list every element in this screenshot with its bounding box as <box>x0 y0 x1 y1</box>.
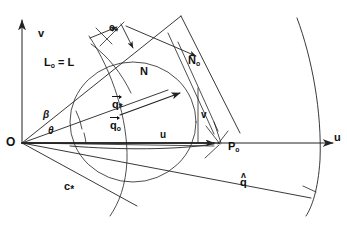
label-q-zero: qo <box>110 120 121 133</box>
label-N-zero: No <box>188 55 200 68</box>
P0-spoke-3 <box>205 145 219 158</box>
axis-label-u: u <box>334 132 341 143</box>
diagram-canvas <box>0 0 347 248</box>
angle-arc-beta <box>76 111 82 129</box>
segment-N0 <box>168 33 214 134</box>
label-v-component: v <box>201 110 207 120</box>
angle-arc-theta <box>84 133 86 143</box>
label-L0-equals-L: Lo = L <box>44 57 74 70</box>
label-P-zero: Po <box>228 141 240 154</box>
ray-L0 <box>22 16 181 143</box>
label-q-hat: ʌq <box>240 177 247 188</box>
label-N: N <box>140 66 148 77</box>
point-label-origin: O <box>6 136 15 148</box>
P0-spoke-1 <box>206 126 220 144</box>
far-characteristic-arc <box>297 18 320 216</box>
label-c-star-top: c* <box>109 23 118 36</box>
vector-geometry-figure: v u O β θ Lo = L c* N No Po q* qo u v c* <box>0 0 347 248</box>
angle-label-theta: θ <box>48 126 54 136</box>
label-c-star: c* <box>64 181 74 195</box>
triangle-right-side <box>181 16 240 133</box>
label-u-component: u <box>160 130 166 140</box>
angle-label-beta: β <box>43 110 49 120</box>
axis-label-v: v <box>38 28 44 39</box>
ray-c-star <box>22 143 137 206</box>
near-characteristic-arc <box>91 44 131 93</box>
tick-q-hat-end <box>303 186 316 192</box>
P0-spoke-2 <box>214 122 221 143</box>
label-q-star: q* <box>112 99 123 113</box>
arrow-c-star-down <box>121 24 133 48</box>
